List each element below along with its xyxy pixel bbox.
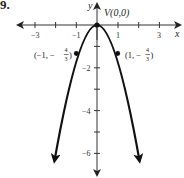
x-tick-label: −1: [72, 31, 81, 40]
parabola-graph: −3 −1 1 3 −2 −4 −6 x y V(0,0) (−1, − 4 3…: [0, 0, 184, 178]
svg-text:): ): [69, 50, 72, 60]
x-tick-label: 1: [116, 31, 120, 40]
svg-text:4: 4: [65, 47, 68, 53]
x-tick-label: 3: [157, 31, 161, 40]
vertex-point: [94, 22, 99, 27]
vertex-label: V(0,0): [104, 7, 130, 19]
point-left: [74, 51, 79, 56]
y-tick-label: −2: [82, 64, 91, 73]
parabola-curve: [97, 25, 140, 161]
x-tick-label: −3: [31, 31, 40, 40]
svg-text:4: 4: [146, 47, 149, 53]
svg-text:3: 3: [65, 56, 68, 62]
svg-text:3: 3: [146, 56, 149, 62]
point-right: [115, 51, 120, 56]
x-axis-label: x: [174, 28, 180, 39]
parabola-curve: [55, 25, 98, 161]
y-tick-label: −4: [82, 107, 91, 116]
svg-text:): ): [151, 50, 154, 60]
point-right-label: (1, − 4 3 ): [125, 47, 154, 62]
svg-text:(−1, −: (−1, −: [34, 50, 55, 60]
point-left-label: (−1, − 4 3 ): [34, 47, 72, 62]
svg-text:(1, −: (1, −: [125, 50, 141, 60]
y-tick-label: −6: [82, 149, 91, 158]
y-axis-label: y: [87, 0, 93, 11]
y-axis: [94, 4, 100, 175]
